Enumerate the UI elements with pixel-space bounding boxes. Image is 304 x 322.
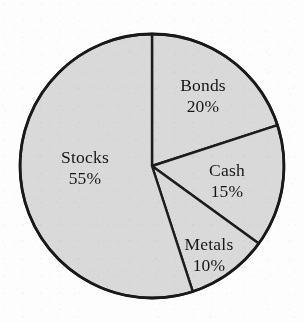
pie-chart-figure: Bonds20%Cash15%Metals10%Stocks55% bbox=[0, 0, 304, 322]
slice-name-text: Bonds bbox=[180, 75, 226, 95]
slice-percent-text: 10% bbox=[193, 255, 226, 275]
slice-name-text: Stocks bbox=[61, 147, 109, 167]
slice-name-text: Cash bbox=[209, 160, 245, 180]
pie-chart-canvas: Bonds20%Cash15%Metals10%Stocks55% bbox=[0, 0, 304, 322]
slice-percent-text: 55% bbox=[69, 168, 102, 188]
pie-slice-label-cash: Cash15% bbox=[209, 160, 245, 201]
pie-slice-label-bonds: Bonds20% bbox=[180, 75, 226, 116]
slice-percent-text: 20% bbox=[187, 96, 220, 116]
slice-percent-text: 15% bbox=[211, 181, 244, 201]
slice-name-text: Metals bbox=[185, 234, 234, 254]
